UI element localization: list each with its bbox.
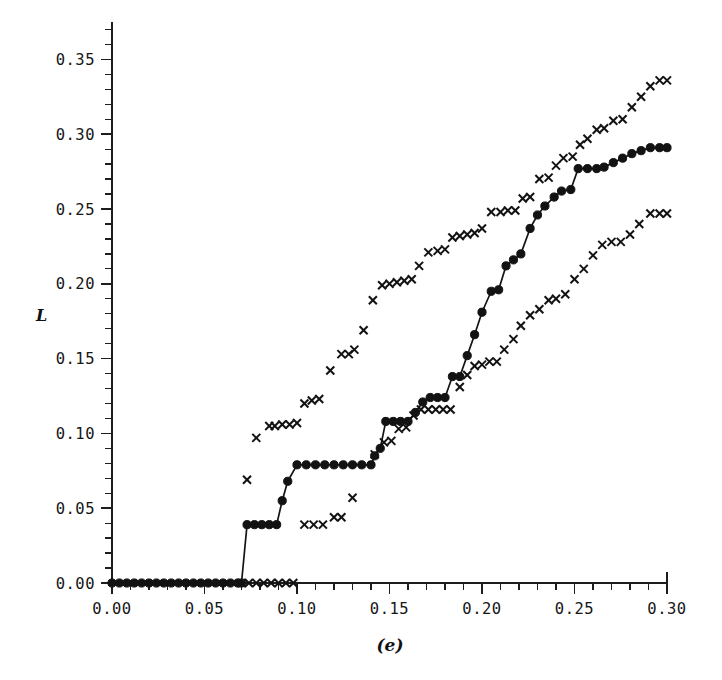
- marker-circle: [526, 224, 534, 232]
- marker-circle: [557, 187, 565, 195]
- marker-circle: [593, 165, 601, 173]
- x-tick-label: 0.00: [92, 600, 131, 618]
- marker-circle: [487, 287, 495, 295]
- y-tick-label: 0.20: [56, 275, 95, 293]
- marker-circle: [311, 461, 319, 469]
- marker-circle: [273, 521, 281, 529]
- y-tick-label: 0.10: [56, 425, 95, 443]
- y-tick-label: 0.25: [56, 201, 95, 219]
- marker-circle: [371, 452, 379, 460]
- y-tick-label: 0.15: [56, 350, 95, 368]
- marker-circle: [600, 163, 608, 171]
- marker-circle: [646, 144, 654, 152]
- x-tick-label: 0.30: [647, 600, 686, 618]
- marker-circle: [419, 398, 427, 406]
- marker-circle: [302, 461, 310, 469]
- marker-circle: [509, 256, 517, 264]
- panel-label: (e): [377, 635, 404, 655]
- marker-circle: [471, 331, 479, 339]
- marker-circle: [348, 461, 356, 469]
- marker-circle: [583, 165, 591, 173]
- y-tick-label: 0.30: [56, 126, 95, 144]
- x-tick-label: 0.20: [462, 600, 501, 618]
- marker-circle: [628, 150, 636, 158]
- x-tick-label: 0.05: [185, 600, 224, 618]
- marker-circle: [293, 461, 301, 469]
- marker-circle: [495, 286, 503, 294]
- marker-circle: [502, 262, 510, 270]
- y-tick-label: 0.05: [56, 500, 95, 518]
- marker-circle: [663, 144, 671, 152]
- x-tick-label: 0.10: [277, 600, 316, 618]
- marker-circle: [237, 579, 245, 587]
- x-tick-label: 0.25: [555, 600, 594, 618]
- y-axis-title: L: [35, 306, 47, 325]
- marker-circle: [404, 417, 412, 425]
- marker-circle: [637, 147, 645, 155]
- marker-circle: [619, 154, 627, 162]
- marker-circle: [478, 308, 486, 316]
- marker-circle: [609, 159, 617, 167]
- marker-circle: [456, 372, 464, 380]
- marker-circle: [367, 461, 375, 469]
- x-tick-label: 0.15: [370, 600, 409, 618]
- marker-circle: [284, 477, 292, 485]
- marker-circle: [358, 461, 366, 469]
- marker-circle: [567, 185, 575, 193]
- marker-circle: [533, 211, 541, 219]
- marker-circle: [321, 461, 329, 469]
- marker-circle: [339, 461, 347, 469]
- marker-circle: [278, 497, 286, 505]
- marker-circle: [463, 352, 471, 360]
- marker-circle: [441, 393, 449, 401]
- y-tick-label: 0.00: [56, 575, 95, 593]
- marker-circle: [541, 202, 549, 210]
- marker-circle: [550, 193, 558, 201]
- y-tick-label: 0.35: [56, 51, 95, 69]
- marker-circle: [517, 250, 525, 258]
- figure-background: [0, 0, 722, 680]
- figure-root: 0.000.050.100.150.200.250.300.35 0.000.0…: [0, 0, 722, 680]
- marker-circle: [376, 444, 384, 452]
- marker-circle: [330, 461, 338, 469]
- plot-canvas: 0.000.050.100.150.200.250.300.35 0.000.0…: [0, 0, 722, 680]
- marker-circle: [411, 408, 419, 416]
- marker-circle: [574, 165, 582, 173]
